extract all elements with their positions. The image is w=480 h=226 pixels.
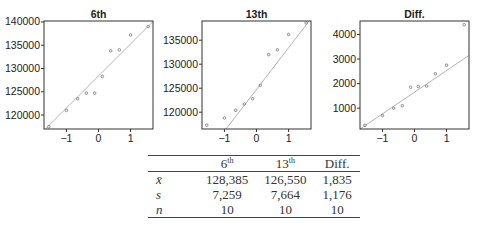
table-cell: 7,259 <box>198 187 256 202</box>
y-tick-label: 125000 <box>5 85 40 97</box>
data-point <box>206 124 209 127</box>
table-row-n: n 10 10 10 <box>148 202 360 218</box>
table-cell: 10 <box>315 202 360 218</box>
plot-frame <box>360 21 469 129</box>
data-point <box>417 85 420 88</box>
reference-line <box>360 55 469 129</box>
data-point <box>409 86 412 89</box>
data-point <box>276 49 279 52</box>
table-row-sd: s 7,259 7,664 1,176 <box>148 187 360 202</box>
header-diff: Diff. <box>315 156 360 172</box>
x-tick-label: 0 <box>254 132 260 144</box>
y-tick-label: 2000 <box>333 77 357 89</box>
x-tick-label: 1 <box>286 132 292 144</box>
data-point <box>463 23 466 26</box>
data-point <box>251 97 254 100</box>
y-tick-label: 130000 <box>5 62 40 74</box>
qq-panel-3: Diff.1000200030004000−101 <box>333 8 469 144</box>
data-point <box>259 84 262 87</box>
data-point <box>48 125 51 128</box>
y-tick-label: 135000 <box>5 39 40 51</box>
y-tick-label: 130000 <box>163 58 198 70</box>
x-tick-label: 0 <box>96 132 102 144</box>
y-tick-label: 120000 <box>5 109 40 121</box>
data-point <box>65 109 68 112</box>
x-tick-label: −1 <box>218 132 230 144</box>
row-label: s <box>148 187 198 202</box>
data-point <box>287 33 290 36</box>
table-cell: 10 <box>198 202 256 218</box>
y-tick-label: 135000 <box>163 34 198 46</box>
data-point <box>223 117 226 120</box>
table-cell: 128,385 <box>198 172 256 188</box>
data-point <box>101 75 104 78</box>
y-tick-label: 120000 <box>163 106 198 118</box>
x-tick-label: 1 <box>444 132 450 144</box>
x-tick-label: 0 <box>412 132 418 144</box>
x-tick-label: −1 <box>60 132 72 144</box>
qq-panel-1: 6th120000125000130000135000140000−101 <box>5 8 153 144</box>
y-tick-label: 3000 <box>333 53 357 65</box>
table-cell: 7,664 <box>256 187 314 202</box>
table-cell: 10 <box>256 202 314 218</box>
data-point <box>392 107 395 110</box>
row-label: x̄ <box>148 172 198 188</box>
data-point <box>85 92 88 95</box>
x-tick-label: −1 <box>376 132 388 144</box>
data-point <box>401 104 404 107</box>
qq-panel-2: 13th120000125000130000135000−101 <box>163 8 311 144</box>
panel-title: 6th <box>91 8 107 20</box>
panel-title: 13th <box>246 8 268 20</box>
header-6th: 6th <box>198 156 256 172</box>
panel-title: Diff. <box>404 8 424 20</box>
table-header-row: 6th 13th Diff. <box>148 156 360 172</box>
table-cell: 126,550 <box>256 172 314 188</box>
data-point <box>76 97 79 100</box>
x-tick-label: 1 <box>128 132 134 144</box>
table-row-mean: x̄ 128,385 126,550 1,835 <box>148 172 360 188</box>
data-point <box>434 72 437 75</box>
data-point <box>305 22 308 25</box>
data-point <box>381 114 384 117</box>
plot-frame <box>202 21 311 129</box>
row-label: n <box>148 202 198 218</box>
data-point <box>129 34 132 37</box>
table-cell: 1,835 <box>315 172 360 188</box>
qq-plots: 6th120000125000130000135000140000−10113t… <box>0 0 480 150</box>
header-13th: 13th <box>256 156 314 172</box>
reference-line <box>44 21 153 130</box>
data-point <box>267 53 270 56</box>
data-point <box>93 92 96 95</box>
data-point <box>425 85 428 88</box>
data-point <box>445 64 448 67</box>
data-point <box>109 49 112 52</box>
y-tick-label: 140000 <box>5 15 40 27</box>
table-cell: 1,176 <box>315 187 360 202</box>
reference-line <box>226 19 311 129</box>
header-blank <box>148 156 198 172</box>
y-tick-label: 125000 <box>163 82 198 94</box>
data-point <box>243 103 246 106</box>
y-tick-label: 4000 <box>333 28 357 40</box>
summary-table: 6th 13th Diff. x̄ 128,385 126,550 1,835 … <box>148 155 360 218</box>
data-point <box>118 49 121 52</box>
data-point <box>234 109 237 112</box>
y-tick-label: 1000 <box>333 102 357 114</box>
